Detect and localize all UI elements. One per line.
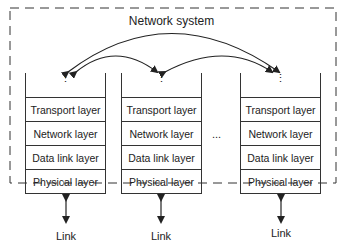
link-label-2: Link — [141, 230, 181, 242]
network-layer: Network layer — [25, 122, 106, 146]
network-layer: Network layer — [240, 122, 321, 146]
more-layers-dots: ⋮ — [26, 75, 105, 81]
network-system-title: Network system — [0, 14, 343, 28]
more-layers-dots: ⋮ — [241, 75, 320, 81]
link-label-3: Link — [261, 227, 301, 239]
protocol-stack-2: ⋮ Transport layer Network layer Data lin… — [121, 73, 202, 194]
arc-2-3 — [165, 56, 272, 72]
physical-layer: Physical layer — [25, 170, 106, 194]
physical-layer: Physical layer — [240, 170, 321, 194]
more-layers-dots: ⋮ — [122, 75, 201, 81]
protocol-stack-3: ⋮ Transport layer Network layer Data lin… — [240, 73, 321, 194]
arc-1-3 — [68, 34, 279, 73]
transport-layer: Transport layer — [121, 97, 202, 122]
link-label-1: Link — [46, 230, 86, 242]
data-link-layer: Data link layer — [25, 146, 106, 170]
transport-layer: Transport layer — [25, 97, 106, 122]
data-link-layer: Data link layer — [121, 146, 202, 170]
protocol-stack-1: ⋮ Transport layer Network layer Data lin… — [25, 73, 106, 194]
data-link-layer: Data link layer — [240, 146, 321, 170]
transport-layer: Transport layer — [240, 97, 321, 122]
physical-layer: Physical layer — [121, 170, 202, 194]
network-layer: Network layer — [121, 122, 202, 146]
more-stacks-ellipsis: ... — [212, 128, 221, 140]
